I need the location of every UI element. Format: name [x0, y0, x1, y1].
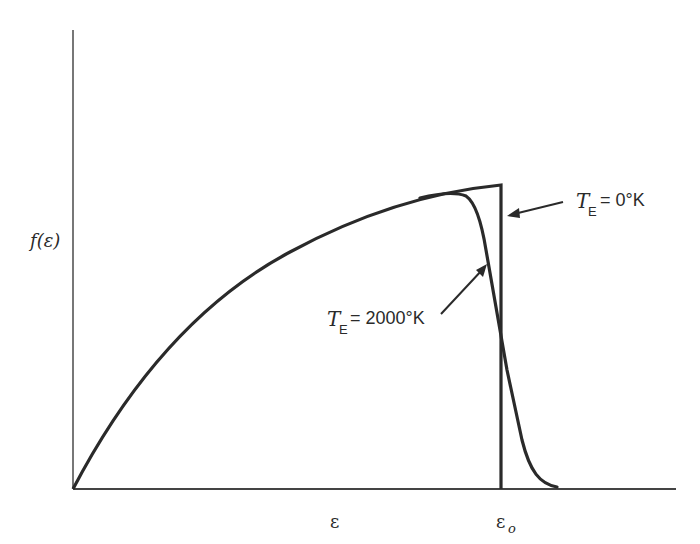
x-label-epsilon: ε [330, 511, 339, 532]
arrow-t-hot [441, 264, 487, 314]
y-axis-label: f(ε) [28, 230, 60, 251]
arrow-t-zero [507, 202, 563, 218]
curve-t-zero [73, 185, 501, 489]
distribution-figure: f(ε) ε ε o T E = 0°K T E = 2000°K [0, 0, 700, 544]
curve-t-hot [420, 194, 557, 487]
svg-text:o: o [508, 521, 516, 536]
svg-text:= 2000°K: = 2000°K [350, 308, 425, 328]
svg-text:= 0°K: = 0°K [600, 190, 645, 210]
x-label-epsilon-zero: ε o [496, 511, 516, 536]
label-t-zero: T E = 0°K [576, 189, 645, 219]
svg-text:ε: ε [496, 511, 505, 532]
svg-text:E: E [339, 322, 348, 337]
label-t-hot: T E = 2000°K [327, 307, 425, 337]
svg-text:E: E [588, 204, 597, 219]
